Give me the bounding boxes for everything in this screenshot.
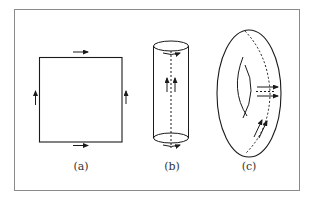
panel-b-label: (b) [164, 160, 180, 173]
square-shape [40, 58, 123, 143]
panel-a-square [36, 52, 127, 146]
panel-a-label: (a) [73, 160, 88, 173]
panel-b-cylinder [154, 41, 189, 148]
cylinder-bottom-rim [154, 133, 189, 143]
panel-c-torus [217, 30, 281, 157]
cylinder-top-rim [154, 41, 189, 51]
cylinder-top-circular-arrow-icon [163, 53, 180, 55]
figure-frame [15, 10, 300, 191]
topology-figure: (a) (b) (c) [0, 0, 314, 200]
panel-c-label: (c) [242, 160, 257, 173]
figure-canvas: (a) (b) (c) [0, 0, 314, 200]
torus-seam-dashed [245, 31, 270, 154]
torus-outer [217, 30, 281, 157]
torus-hole-lower [243, 65, 251, 118]
cylinder-bottom-circular-arrow-icon [163, 145, 180, 147]
